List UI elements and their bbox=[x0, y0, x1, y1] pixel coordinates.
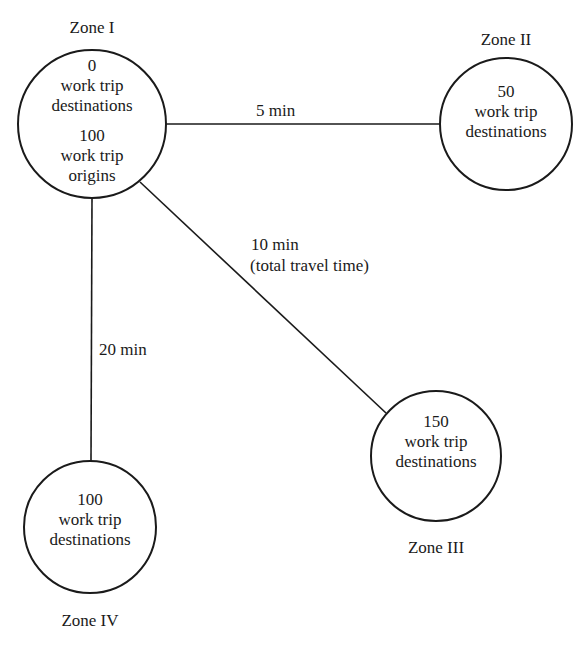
link-zone1-zone4 bbox=[91, 198, 92, 461]
zone-1-line: origins bbox=[22, 166, 162, 186]
zone-1-title: Zone I bbox=[40, 18, 144, 38]
zone-3-line: work trip bbox=[366, 432, 506, 452]
zone-3-title: Zone III bbox=[384, 538, 488, 558]
zone-3-destinations-count: 150 bbox=[366, 412, 506, 432]
zone-1-line: work trip bbox=[22, 76, 162, 96]
zone-1-line: work trip bbox=[22, 146, 162, 166]
zone-2-line: destinations bbox=[436, 122, 576, 142]
zone-1-line: destinations bbox=[22, 96, 162, 116]
zone-2-destinations-count: 50 bbox=[436, 82, 576, 102]
link-zone1-zone3-label: 10 min bbox=[251, 235, 299, 255]
zone-3-line: destinations bbox=[366, 452, 506, 472]
link-zone1-zone2-label: 5 min bbox=[256, 101, 295, 121]
zone-1-origins-count: 100 bbox=[22, 126, 162, 146]
zone-1-content: 0 work trip destinations 100 work trip o… bbox=[22, 56, 162, 186]
zone-3-content: 150 work trip destinations bbox=[366, 412, 506, 472]
zone-4-destinations-count: 100 bbox=[20, 490, 160, 510]
zone-1-destinations-count: 0 bbox=[22, 56, 162, 76]
zone-4-content: 100 work trip destinations bbox=[20, 490, 160, 550]
zone-2-title: Zone II bbox=[454, 30, 558, 50]
zone-2-line: work trip bbox=[436, 102, 576, 122]
link-zone1-zone3 bbox=[140, 182, 386, 413]
zone-4-line: work trip bbox=[20, 510, 160, 530]
link-zone1-zone4-label: 20 min bbox=[99, 340, 147, 360]
zone-4-title: Zone IV bbox=[38, 611, 142, 631]
link-zone1-zone3-sublabel: (total travel time) bbox=[250, 256, 369, 276]
zone-2-content: 50 work trip destinations bbox=[436, 82, 576, 142]
zone-4-line: destinations bbox=[20, 530, 160, 550]
